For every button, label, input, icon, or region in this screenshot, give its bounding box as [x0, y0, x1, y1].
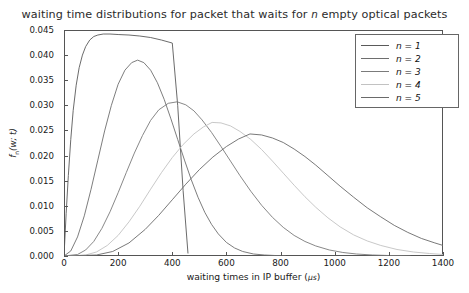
x-tick-label: 800 — [261, 258, 301, 268]
legend-item-4[interactable]: n = 4 — [361, 78, 453, 91]
x-tick-mark — [226, 252, 227, 256]
y-tick-mark — [64, 206, 68, 207]
chart-title: waiting time distributions for packet th… — [0, 8, 469, 21]
y-tick-label: 0.035 — [0, 75, 54, 85]
legend-line-swatch — [361, 45, 389, 46]
y-tick-label: 0.045 — [0, 25, 54, 35]
x-tick-mark — [281, 252, 282, 256]
chart-root: waiting time distributions for packet th… — [0, 0, 469, 293]
series-line-1 — [64, 34, 188, 256]
y-tick-label: 0.005 — [0, 226, 54, 236]
y-tick-mark — [64, 130, 68, 131]
legend-item-5[interactable]: n = 5 — [361, 91, 453, 104]
legend-line-swatch — [361, 71, 389, 72]
legend-item-1[interactable]: n = 1 — [361, 39, 453, 52]
y-tick-mark — [64, 181, 68, 182]
chart-title-variable: n — [311, 8, 318, 20]
legend-label: n = 1 — [396, 41, 421, 51]
x-tick-mark — [172, 252, 173, 256]
series-line-4 — [64, 122, 443, 256]
legend-line-swatch — [361, 97, 389, 98]
y-axis-label: fn(w; t) — [8, 128, 20, 158]
x-tick-mark — [64, 252, 65, 256]
x-tick-mark — [335, 252, 336, 256]
x-tick-label: 1000 — [315, 258, 355, 268]
y-tick-mark — [64, 55, 68, 56]
legend-label: n = 3 — [396, 67, 421, 77]
x-axis-label: waiting times in IP buffer (μs) — [64, 271, 443, 282]
legend-item-2[interactable]: n = 2 — [361, 52, 453, 65]
x-tick-label: 200 — [98, 258, 138, 268]
series-line-3 — [64, 102, 411, 256]
legend-line-swatch — [361, 58, 389, 59]
y-tick-label: 0.040 — [0, 50, 54, 60]
x-axis-label-text: waiting times in IP buffer ( — [187, 271, 308, 282]
y-tick-label: 0.010 — [0, 201, 54, 211]
legend-item-3[interactable]: n = 3 — [361, 65, 453, 78]
x-tick-mark — [118, 252, 119, 256]
y-tick-mark — [64, 80, 68, 81]
legend-label: n = 2 — [396, 54, 421, 64]
y-tick-mark — [64, 256, 68, 257]
x-axis-label-close: ) — [317, 271, 321, 282]
chart-legend: n = 1n = 2n = 3n = 4n = 5 — [355, 34, 459, 108]
x-tick-label: 1200 — [369, 258, 409, 268]
y-tick-mark — [64, 105, 68, 106]
chart-title-pre: waiting time distributions for packet th… — [22, 8, 312, 21]
x-tick-label: 1400 — [423, 258, 463, 268]
y-tick-mark — [64, 30, 68, 31]
y-axis-label-arg: (w; t) — [8, 128, 18, 151]
y-tick-label: 0.015 — [0, 176, 54, 186]
y-axis-label-f: f — [8, 155, 18, 158]
x-axis-unit: μs — [308, 273, 317, 282]
x-tick-label: 600 — [206, 258, 246, 268]
x-tick-label: 0 — [44, 258, 84, 268]
x-tick-label: 400 — [152, 258, 192, 268]
y-tick-mark — [64, 231, 68, 232]
y-axis-label-sub: n — [13, 151, 20, 155]
chart-title-post: empty optical packets — [318, 8, 448, 21]
legend-line-swatch — [361, 84, 389, 85]
x-tick-mark — [443, 252, 444, 256]
legend-label: n = 4 — [396, 80, 421, 90]
y-tick-label: 0.030 — [0, 100, 54, 110]
y-tick-mark — [64, 156, 68, 157]
series-line-2 — [64, 60, 286, 256]
legend-label: n = 5 — [396, 93, 421, 103]
x-tick-mark — [389, 252, 390, 256]
